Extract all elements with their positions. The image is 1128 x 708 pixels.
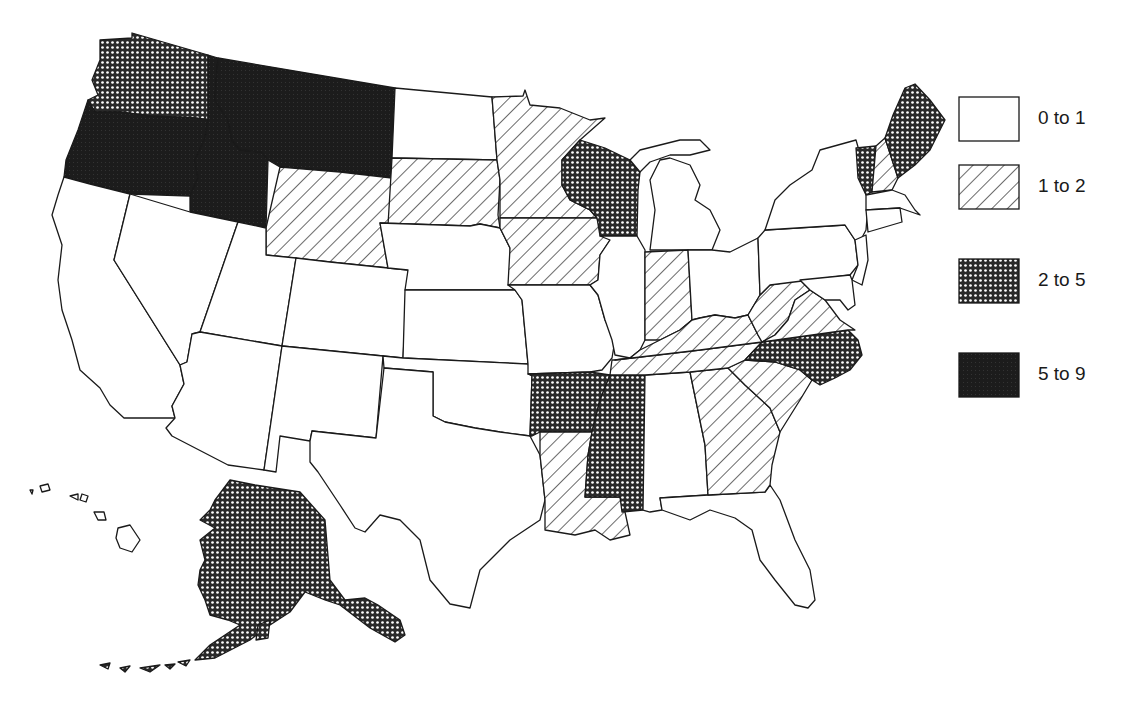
state-maine	[885, 84, 945, 178]
alaska-aleutians	[100, 660, 190, 672]
legend-label: 1 to 2	[1038, 175, 1086, 197]
legend-item-5-to-9: 5 to 9	[958, 352, 1128, 398]
legend-label: 2 to 5	[1038, 269, 1086, 291]
legend-swatch-solid	[958, 352, 1020, 398]
state-florida	[660, 485, 815, 608]
legend-item-2-to-5: 2 to 5	[958, 258, 1128, 304]
state-washington	[88, 33, 208, 120]
state-hawaii	[30, 484, 140, 552]
legend-swatch-diagonal	[958, 164, 1020, 210]
legend-swatch-crosshatch	[958, 258, 1020, 304]
legend-label: 0 to 1	[1038, 107, 1086, 129]
state-wyoming	[266, 167, 392, 268]
legend-swatch-blank	[958, 96, 1020, 142]
legend-item-0-to-1: 0 to 1	[958, 96, 1128, 142]
state-iowa	[500, 218, 610, 285]
state-north-dakota	[392, 88, 497, 160]
state-kansas	[403, 290, 528, 364]
legend-item-1-to-2: 1 to 2	[958, 164, 1128, 210]
state-michigan	[630, 140, 720, 250]
state-ohio	[688, 238, 760, 320]
legend-label: 5 to 9	[1038, 363, 1086, 385]
state-connecticut	[866, 208, 902, 232]
state-colorado	[282, 258, 408, 358]
